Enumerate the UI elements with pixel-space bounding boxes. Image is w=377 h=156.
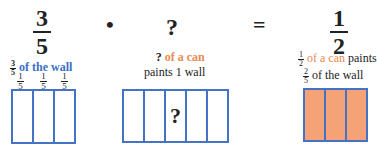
caption-right: 12 of a can paints 25 of the wall bbox=[298, 51, 377, 85]
whole-wall-diagram: ? bbox=[122, 89, 229, 143]
equals-sign: = bbox=[253, 12, 266, 38]
numerator: 3 bbox=[36, 6, 48, 30]
painted-wall-diagram bbox=[303, 88, 368, 142]
multiply-dot: • bbox=[106, 12, 114, 38]
caption-middle: ? of a can paints 1 wall bbox=[155, 50, 205, 80]
wall-three-fifths-diagram bbox=[11, 89, 76, 144]
unknown-fraction: ? bbox=[166, 15, 178, 39]
fraction-three-fifths: 3 5 bbox=[33, 6, 51, 58]
denominator: 5 bbox=[36, 34, 48, 58]
unknown-mark: ? bbox=[166, 91, 187, 141]
